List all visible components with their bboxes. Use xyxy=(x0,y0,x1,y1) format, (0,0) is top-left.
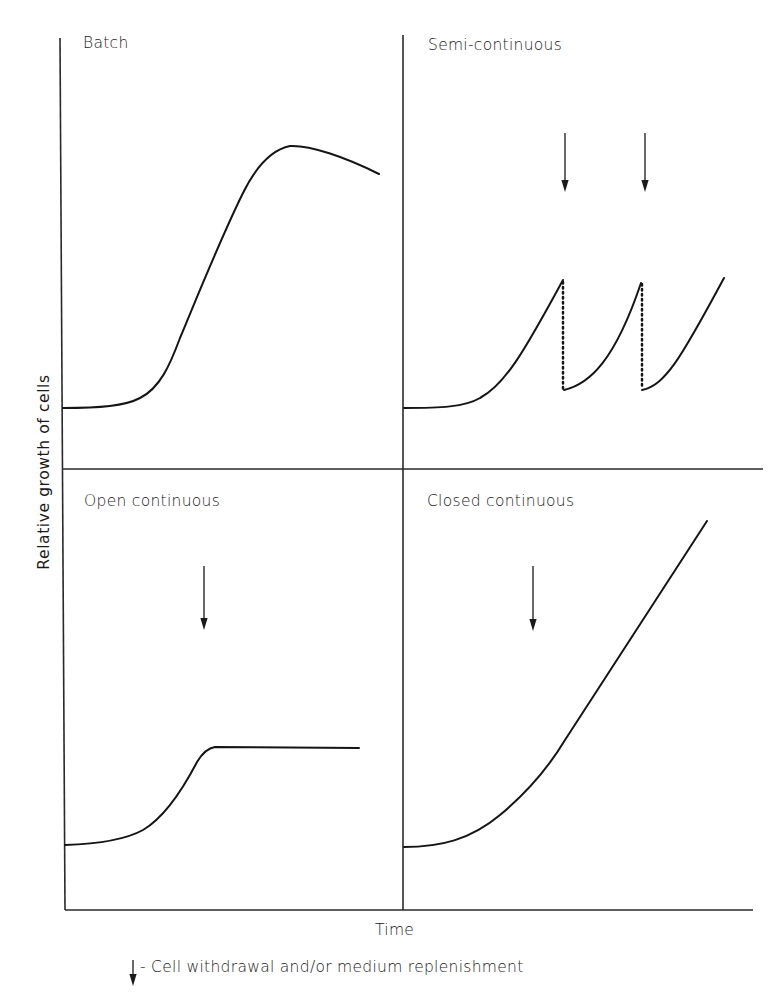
axes-frame xyxy=(60,35,763,910)
semi-continuous-curve-segment-2 xyxy=(564,283,641,390)
panel-batch xyxy=(63,146,379,408)
panel-closed-continuous xyxy=(404,521,707,847)
down-arrow-icon xyxy=(529,566,536,631)
down-arrow-icon xyxy=(561,133,568,192)
y-axis-label: Relative growth of cells xyxy=(35,352,53,592)
y-axis xyxy=(60,38,65,910)
panel-title-semi-continuous: Semi-continuous xyxy=(428,36,562,54)
down-arrow-icon xyxy=(641,133,648,192)
down-arrow-icon xyxy=(200,566,207,630)
panel-semi-continuous xyxy=(404,133,724,408)
panel-title-closed-continuous: Closed continuous xyxy=(427,492,574,510)
open-continuous-curve xyxy=(65,747,359,845)
x-axis-label: Time xyxy=(375,921,414,939)
semi-continuous-curve-segment-1 xyxy=(404,280,563,408)
closed-continuous-curve xyxy=(404,521,707,847)
semi-continuous-curve-segment-3 xyxy=(642,278,724,390)
batch-growth-curve xyxy=(63,146,379,408)
legend-down-arrow-icon xyxy=(129,960,136,986)
legend-text: - Cell withdrawal and/or medium replenis… xyxy=(140,958,524,976)
panel-title-batch: Batch xyxy=(83,34,129,52)
panel-title-open-continuous: Open continuous xyxy=(84,492,220,510)
panel-open-continuous xyxy=(65,566,359,845)
